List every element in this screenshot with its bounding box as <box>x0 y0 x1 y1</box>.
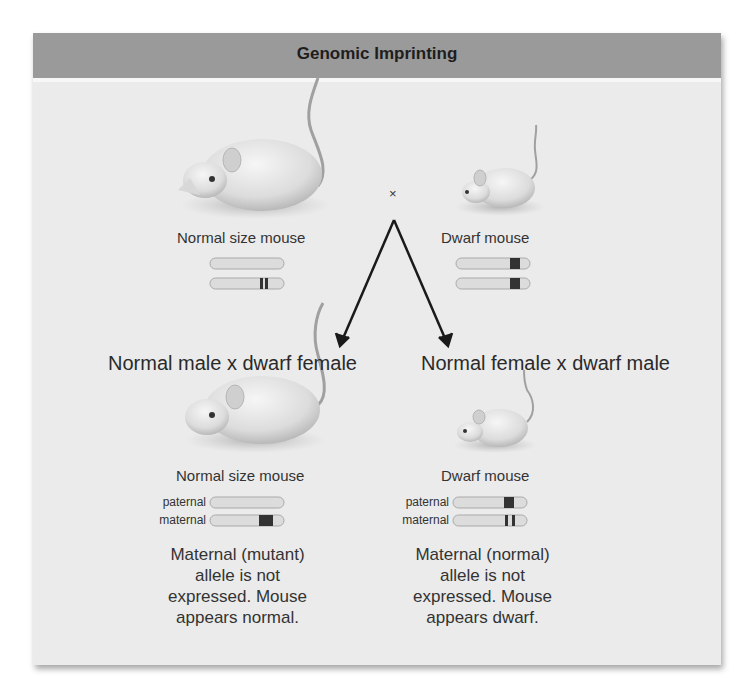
normal-mouse-illustration <box>0 0 750 699</box>
left-description: Maternal (mutant) allele is not expresse… <box>140 544 335 628</box>
mouse-normal-parent <box>178 78 330 219</box>
mouse-normal-offspring <box>185 303 325 453</box>
right-description: Maternal (normal) allele is not expresse… <box>385 544 580 628</box>
cross-arrows <box>336 220 452 346</box>
chromosomes-dwarf-offspring <box>453 497 527 526</box>
normal-parent-label: Normal size mouse <box>177 229 305 246</box>
chromosomes-normal-parent <box>210 258 284 289</box>
cross-right-title: Normal female x dwarf male <box>421 352 670 375</box>
dwarf-offspring-label: Dwarf mouse <box>441 467 529 484</box>
cross-left-title: Normal male x dwarf female <box>108 352 357 375</box>
dwarf-parent-label: Dwarf mouse <box>441 229 529 246</box>
cross-symbol: × <box>389 186 397 201</box>
normal-offspring-label: Normal size mouse <box>176 467 304 484</box>
mouse-dwarf-parent <box>455 125 545 216</box>
mouse-dwarf-offspring <box>453 370 537 453</box>
maternal-label-right: maternal <box>383 513 449 527</box>
chromosomes-normal-offspring <box>210 497 284 526</box>
chromosomes-dwarf-parent <box>456 258 530 289</box>
paternal-label-right: paternal <box>383 495 449 509</box>
maternal-label-left: maternal <box>140 513 206 527</box>
paternal-label-left: paternal <box>140 495 206 509</box>
